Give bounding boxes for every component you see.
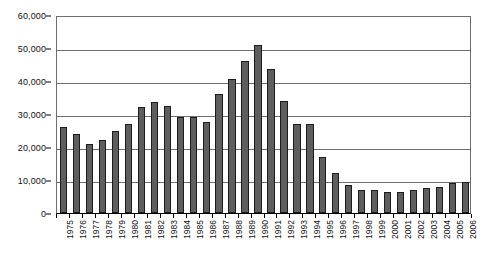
bar (86, 144, 93, 213)
x-axis-tick (121, 214, 122, 218)
y-axis-tick (46, 49, 51, 50)
x-axis-tick (354, 214, 355, 218)
x-axis-tick-label: 1981 (144, 220, 153, 239)
x-axis-tick (186, 214, 187, 218)
bar (332, 173, 339, 213)
bar (73, 134, 80, 213)
x-axis-tick (134, 214, 135, 218)
y-axis-tick (46, 115, 51, 116)
bar (280, 101, 287, 213)
x-axis-tick-label: 1975 (66, 220, 75, 239)
bar (293, 124, 300, 213)
bar-series (57, 17, 470, 213)
bar (241, 61, 248, 213)
y-axis-tick (46, 82, 51, 83)
x-axis-tick (147, 214, 148, 218)
x-axis-tick-label: 1994 (313, 220, 322, 239)
y-axis-tick (46, 181, 51, 182)
x-axis-tick (108, 214, 109, 218)
bar (60, 127, 67, 213)
y-axis-tick-label: 10,000 (18, 177, 46, 186)
x-axis-tick (276, 214, 277, 218)
bar (345, 185, 352, 213)
x-axis-tick (406, 214, 407, 218)
bar (358, 190, 365, 213)
x-axis-tick-label: 2006 (469, 220, 478, 239)
x-axis-tick-label: 1985 (196, 220, 205, 239)
y-axis-tick-label: 20,000 (18, 144, 46, 153)
bar (410, 190, 417, 213)
bar (319, 157, 326, 213)
bar (99, 140, 106, 213)
bar (397, 192, 404, 213)
x-axis-tick (173, 214, 174, 218)
x-axis-tick (82, 214, 83, 218)
bar (164, 106, 171, 213)
x-axis-tick (264, 214, 265, 218)
x-axis-tick (238, 214, 239, 218)
x-axis-tick (419, 214, 420, 218)
x-axis-tick-label: 2000 (391, 220, 400, 239)
x-axis-tick (160, 214, 161, 218)
x-axis-tick (95, 214, 96, 218)
y-axis-tick-label: 40,000 (18, 78, 46, 87)
x-axis-tick (367, 214, 368, 218)
bar (228, 79, 235, 213)
y-axis: 010,00020,00030,00040,00050,00060,000 (0, 0, 56, 220)
x-axis-tick-label: 1976 (79, 220, 88, 239)
x-axis-tick-label: 1988 (235, 220, 244, 239)
x-axis-tick-label: 1997 (352, 220, 361, 239)
x-axis-tick-label: 2002 (417, 220, 426, 239)
bar (254, 45, 261, 213)
bar (462, 182, 469, 213)
x-axis-tick (302, 214, 303, 218)
x-axis-tick-label: 1979 (118, 220, 127, 239)
x-axis-tick (212, 214, 213, 218)
x-axis-tick (225, 214, 226, 218)
y-axis-tick (46, 214, 51, 215)
plot-area (56, 16, 471, 214)
x-axis-tick (56, 214, 57, 218)
x-axis-tick-label: 1980 (131, 220, 140, 239)
x-axis-tick (328, 214, 329, 218)
x-axis-tick-label: 1983 (170, 220, 179, 239)
y-axis-tick (46, 148, 51, 149)
x-axis-tick-label: 1991 (274, 220, 283, 239)
x-axis-tick (315, 214, 316, 218)
x-axis-tick (289, 214, 290, 218)
y-axis-tick-label: 60,000 (18, 12, 46, 21)
bar (436, 187, 443, 213)
bar (371, 190, 378, 213)
x-axis-tick (458, 214, 459, 218)
x-axis-tick-label: 1992 (287, 220, 296, 239)
y-axis-tick-label: 50,000 (18, 45, 46, 54)
bar (449, 183, 456, 213)
x-axis-tick-label: 1995 (326, 220, 335, 239)
y-axis-tick (46, 16, 51, 17)
x-axis-tick (393, 214, 394, 218)
x-axis-tick-label: 1996 (339, 220, 348, 239)
x-axis-tick-label: 2003 (430, 220, 439, 239)
x-axis-tick-label: 1998 (365, 220, 374, 239)
bar (384, 192, 391, 213)
bar (203, 122, 210, 213)
bar (423, 188, 430, 213)
bar (138, 107, 145, 213)
x-axis-tick (380, 214, 381, 218)
bar-chart: 010,00020,00030,00040,00050,00060,000 19… (0, 0, 482, 253)
x-axis-tick-label: 1993 (300, 220, 309, 239)
x-axis-tick (69, 214, 70, 218)
x-axis-tick-label: 2004 (443, 220, 452, 239)
x-axis-tick-label: 1984 (183, 220, 192, 239)
x-axis-tick (199, 214, 200, 218)
bar (151, 102, 158, 213)
y-axis-tick-label: 30,000 (18, 111, 46, 120)
x-axis-tick-label: 1987 (222, 220, 231, 239)
x-axis-tick (471, 214, 472, 218)
x-axis-tick (445, 214, 446, 218)
bar (177, 117, 184, 213)
x-axis-tick-label: 1982 (157, 220, 166, 239)
x-axis-tick (341, 214, 342, 218)
x-axis: 1975197619771978197919801981198219831984… (56, 214, 471, 253)
bar (190, 117, 197, 213)
